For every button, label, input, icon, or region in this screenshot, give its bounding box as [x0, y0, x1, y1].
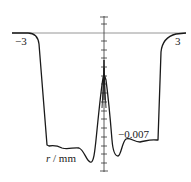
x-tick-label-right: 3 [175, 35, 181, 47]
x-axis-title: r / mm [46, 152, 76, 164]
x-tick-label-left: −3 [15, 35, 27, 47]
profile-line [12, 33, 186, 162]
depth-annotation: −0.007 [118, 128, 149, 140]
profile-chart: −3 3 −0.007 r / mm [0, 0, 191, 182]
